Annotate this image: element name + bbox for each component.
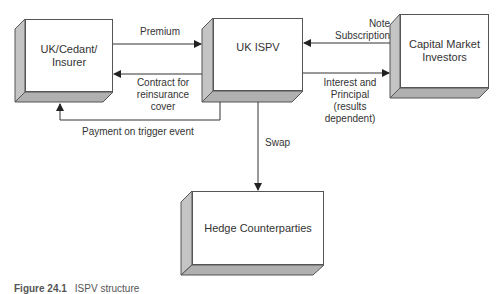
contract-label-line3: cover [128,101,198,113]
investors-label-line1: Capital Market [409,38,480,51]
hedge-label: Hedge Counterparties [204,222,312,235]
interest-label-line1: Interest and [312,77,388,89]
node-hedge: Hedge Counterparties [192,191,324,265]
cedant-label-line1: UK/Cedant/ [41,43,98,56]
note-label-line1: Note [318,18,390,30]
figure-title: ISPV structure [75,283,139,294]
contract-label-line2: reinsurance [128,89,198,101]
ispv-label: UK ISPV [236,41,279,54]
node-investors: Capital Market Investors [400,14,489,88]
node-ispv: UK ISPV [213,18,303,91]
note-subscription-label: Note Subscription [318,18,390,42]
figure-caption: Figure 24.1ISPV structure [14,283,139,294]
interest-label-line3: (results [312,101,388,113]
payment-label: Payment on trigger event [82,126,194,138]
investors-label-line2: Investors [409,51,480,64]
premium-label: Premium [140,26,180,38]
interest-label-line4: dependent) [312,113,388,125]
interest-label-line2: Principal [312,89,388,101]
contract-label-line1: Contract for [128,77,198,89]
swap-label: Swap [265,137,290,149]
node-cedant: UK/Cedant/ Insurer [25,19,113,92]
note-label-line2: Subscription [318,30,390,42]
contract-label: Contract for reinsurance cover [128,77,198,113]
cedant-label-line2: Insurer [41,56,98,69]
interest-principal-label: Interest and Principal (results dependen… [312,77,388,125]
figure-number: Figure 24.1 [14,283,67,294]
